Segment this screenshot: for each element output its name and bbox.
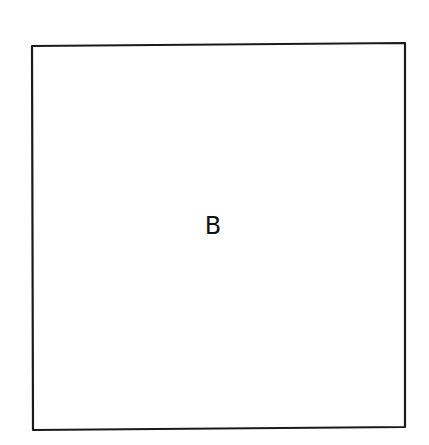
- square-label: B: [205, 212, 221, 240]
- diagram-canvas: B: [0, 0, 429, 445]
